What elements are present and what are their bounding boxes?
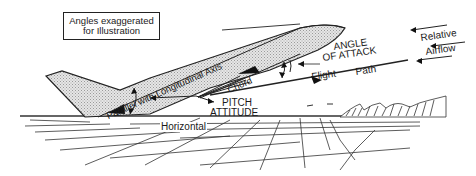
note-box: Angles exaggerated for Illustration — [63, 12, 160, 40]
angle-of-attack-diagram: Angles exaggerated for Illustration Para… — [0, 0, 476, 176]
ground-grid — [20, 116, 430, 170]
label-horizontal: Horizontal — [160, 122, 207, 132]
label-attitude: ATTITUDE — [210, 108, 258, 118]
note-line-2: for Illustration — [64, 26, 159, 36]
distant-hills — [307, 96, 446, 117]
